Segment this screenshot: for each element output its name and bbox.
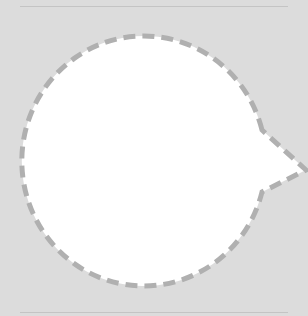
speech-bubble-outline: [22, 36, 306, 286]
bottom-divider: [20, 312, 288, 313]
speech-bubble: [0, 0, 308, 316]
